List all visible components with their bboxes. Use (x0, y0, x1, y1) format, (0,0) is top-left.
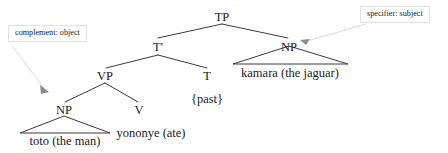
node-tbar: T' (153, 41, 163, 54)
arrowhead-complement (40, 85, 49, 94)
leader-line-complement (12, 46, 44, 88)
syntax-tree-diagram: TP T' NP VP T NP V kamara (the jaguar) {… (0, 0, 448, 153)
node-np-subject: NP (281, 41, 297, 54)
node-v: V (134, 104, 143, 117)
arrowhead-specifier (300, 39, 310, 45)
leader-line-specifier (307, 24, 366, 41)
branch-tp-to-np-subject (222, 24, 288, 38)
node-vp: VP (97, 70, 113, 83)
terminal-verb-words: yononye (ate) (116, 127, 185, 140)
triangle-np-object (20, 116, 110, 133)
terminal-object-words: toto (the man) (30, 135, 101, 148)
callout-complement-object: complement: object (8, 25, 87, 42)
callout-specifier-subject: specifier: subject (360, 6, 430, 23)
branch-vp-to-np-object (65, 83, 105, 102)
terminal-subject-words: kamara (the jaguar) (241, 67, 339, 80)
branch-tbar-to-vp (106, 55, 158, 68)
node-t: T (203, 70, 211, 83)
branch-vp-to-v (105, 83, 138, 102)
node-np-object: NP (56, 104, 72, 117)
branch-tbar-to-t (158, 55, 207, 68)
branch-tp-to-tbar (158, 24, 222, 38)
terminal-tense-words: {past} (191, 93, 223, 106)
node-tp: TP (215, 11, 230, 24)
